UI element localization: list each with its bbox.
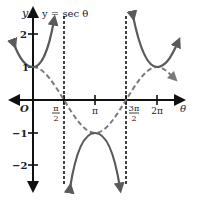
chart-title: y = sec θ bbox=[41, 8, 88, 19]
y-tick-label-1: 1 bbox=[22, 62, 29, 73]
x-axis-label: θ bbox=[180, 103, 186, 114]
y-tick-label-2: 2 bbox=[20, 29, 27, 40]
x-tick-label-pi-half-num: π bbox=[53, 104, 58, 113]
x-tick-label-pi-half-den: 2 bbox=[53, 114, 58, 123]
x-tick-label-2pi: 2π bbox=[151, 106, 163, 116]
y-tick-label-m2: −2 bbox=[12, 160, 27, 171]
secant-branch-pi bbox=[70, 133, 120, 188]
secant-graph: y y = sec θ O θ 2 1 −1 −2 π 2 π 3π 2 2π bbox=[0, 0, 202, 201]
x-tick-label-pi: π bbox=[92, 106, 98, 116]
origin-label: O bbox=[20, 103, 29, 114]
x-tick-label-3pi-half-den: 2 bbox=[131, 114, 136, 123]
y-tick-label-m1: −1 bbox=[12, 128, 27, 139]
x-tick-label-3pi-half-num: 3π bbox=[129, 104, 139, 113]
secant-branch-2pi bbox=[133, 16, 178, 67]
y-axis-label: y bbox=[21, 7, 29, 20]
